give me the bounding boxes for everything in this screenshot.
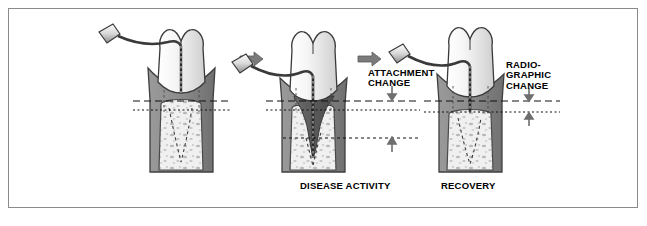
attachment-change-line-2: CHANGE: [368, 78, 435, 88]
figure-root: ATTACHMENT CHANGE RADIO- GRAPHIC CHANGE …: [0, 0, 647, 226]
radiographic-change-line-3: CHANGE: [506, 81, 551, 91]
panel-caption-recovery: RECOVERY: [441, 181, 496, 191]
bone-recovery: [447, 110, 493, 171]
arrow-right-2: [358, 52, 381, 66]
attachment-change-label: ATTACHMENT CHANGE: [368, 68, 435, 89]
bone-level-arrow-icon: [388, 137, 396, 152]
panel-caption-disease-activity: DISEASE ACTIVITY: [300, 181, 390, 191]
radiographic-change-label: RADIO- GRAPHIC CHANGE: [506, 60, 551, 91]
radiographic-change-arrow-icon: [525, 88, 533, 126]
radiographic-change-line-2: GRAPHIC: [506, 70, 551, 80]
panel-baseline: [99, 24, 232, 172]
panel-recovery: [389, 28, 560, 172]
periodontal-diagram: [0, 0, 647, 226]
